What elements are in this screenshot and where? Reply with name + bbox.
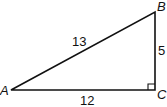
triangle-abc <box>11 12 155 90</box>
triangle-diagram: A B C 13 5 12 <box>0 0 167 107</box>
side-ac-label: 12 <box>80 93 94 107</box>
side-ab-label: 13 <box>72 34 86 49</box>
vertex-b-label: B <box>157 0 166 14</box>
vertex-a-label: A <box>0 83 9 98</box>
right-angle-marker <box>148 84 155 90</box>
vertex-c-label: C <box>157 87 167 102</box>
side-bc-label: 5 <box>158 43 165 58</box>
